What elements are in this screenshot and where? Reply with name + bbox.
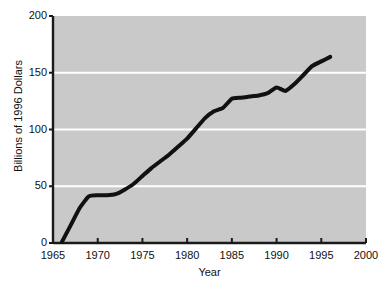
plot-area bbox=[0, 0, 392, 295]
chart-figure: Billions of 1996 Dollars 0 50 100 150 20… bbox=[0, 0, 392, 295]
